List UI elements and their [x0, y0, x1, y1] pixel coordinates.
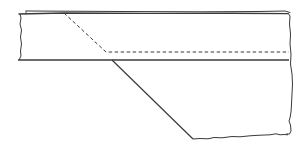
diagram-canvas	[0, 0, 306, 154]
